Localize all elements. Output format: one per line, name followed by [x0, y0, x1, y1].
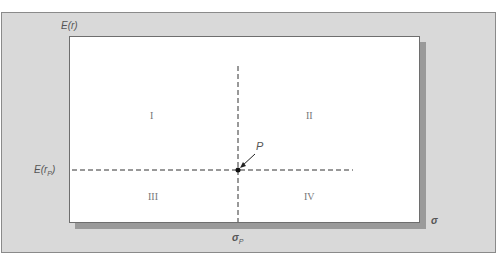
dashed-guides: [0, 0, 504, 264]
portfolio-point-P: [236, 168, 241, 173]
point-P-label: P: [256, 140, 263, 152]
y-marker-label: E(rP): [34, 164, 55, 177]
x-marker-label: σP: [232, 232, 243, 245]
